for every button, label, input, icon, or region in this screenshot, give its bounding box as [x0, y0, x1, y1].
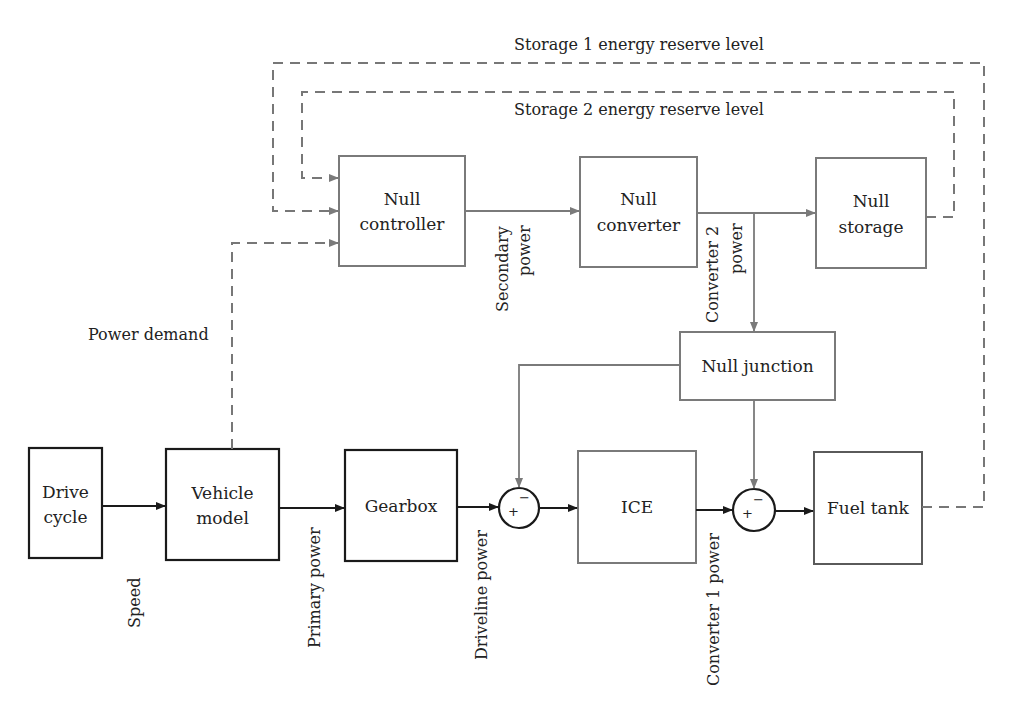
primary-power-label: Primary power [305, 527, 324, 648]
storage2-level-label: Storage 2 energy reserve level [514, 100, 764, 119]
storage1-level-label: Storage 1 energy reserve level [514, 35, 764, 54]
vehicle-model-block: Vehicle model [166, 449, 279, 560]
null-controller-label-2: controller [360, 214, 446, 234]
null-storage-block: Null storage [816, 158, 926, 268]
converter2-power-label-2: power [727, 223, 746, 274]
null-storage-label-1: Null [853, 191, 890, 211]
storage1-level-feedback [273, 63, 984, 507]
converter1-power-label: Converter 1 power [704, 533, 723, 686]
sum1-plus: + [508, 504, 519, 519]
ice-block: ICE [578, 451, 696, 563]
sum2-plus: + [742, 506, 753, 521]
vehicle-model-label-2: model [196, 508, 249, 528]
power-demand-signal [232, 243, 338, 449]
null-converter-block: Null converter [580, 157, 697, 267]
sum2-minus: − [753, 492, 764, 507]
gearbox-label: Gearbox [365, 496, 438, 516]
gearbox-block: Gearbox [345, 450, 457, 561]
null-converter-label-1: Null [620, 189, 657, 209]
secondary-power-label-2: power [515, 225, 534, 276]
null-junction-block: Null junction [680, 332, 835, 400]
junction-to-sum1-arrow [519, 365, 680, 487]
null-storage-label-2: storage [839, 217, 904, 237]
drive-cycle-label-2: cycle [43, 507, 87, 527]
drive-cycle-label-1: Drive [42, 482, 89, 502]
fuel-tank-block: Fuel tank [814, 452, 922, 564]
power-demand-label: Power demand [88, 325, 209, 344]
null-controller-block: Null controller [339, 156, 465, 266]
speed-label: Speed [125, 578, 144, 628]
ice-label: ICE [621, 497, 653, 517]
drive-cycle-block: Drive cycle [29, 448, 102, 558]
converter2-power-label-1: Converter 2 [703, 226, 722, 323]
secondary-power-label-1: Secondary [493, 226, 512, 312]
sum1-minus: − [519, 490, 530, 505]
null-controller-label-1: Null [384, 189, 421, 209]
null-converter-label-2: converter [597, 215, 681, 235]
null-junction-label: Null junction [701, 356, 813, 376]
fuel-tank-label: Fuel tank [827, 498, 910, 518]
vehicle-model-label-1: Vehicle [190, 483, 253, 503]
summing-junction-2: + − [733, 489, 775, 531]
driveline-power-label: Driveline power [472, 530, 491, 660]
block-diagram: Drive cycle Vehicle model Gearbox + − IC… [0, 0, 1012, 708]
summing-junction-1: + − [499, 488, 539, 528]
